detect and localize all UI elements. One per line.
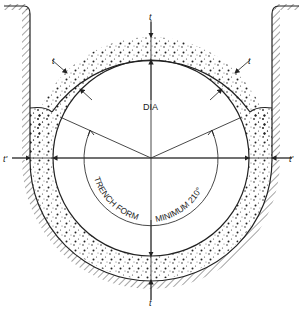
thickness-label-upper-left: t — [52, 56, 55, 66]
pipe-trench-diagram: t t t t t' t' DIA TRENCH FORM MINIMUM 21… — [0, 0, 303, 310]
diameter-label: DIA — [143, 102, 158, 112]
radial-line-left — [60, 117, 151, 158]
trench-wall-left — [4, 4, 30, 160]
side-thickness-label-left: t' — [3, 154, 8, 164]
thickness-label-upper-right: t — [248, 56, 251, 66]
thickness-label-bottom: t — [149, 298, 152, 308]
thickness-label-top: t — [149, 12, 152, 22]
minimum-angle-label: MINIMUM 210° — [154, 186, 204, 225]
trench-form-label: TRENCH FORM — [92, 175, 140, 222]
side-thickness-label-right: t' — [289, 154, 294, 164]
radial-line-right — [151, 117, 242, 158]
trench-wall-right — [272, 4, 299, 160]
